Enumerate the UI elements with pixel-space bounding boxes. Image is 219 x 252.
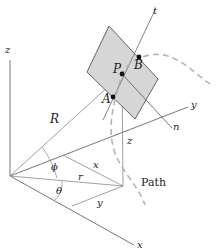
label-y-component: y xyxy=(96,197,103,208)
label-theta: θ xyxy=(56,185,62,196)
label-P: P xyxy=(112,62,122,76)
label-t: t xyxy=(153,5,158,16)
label-path: Path xyxy=(141,176,166,189)
label-x-component: x xyxy=(93,159,99,170)
label-y-axis: y xyxy=(190,99,197,110)
label-phi: ϕ xyxy=(51,161,58,172)
point-A xyxy=(111,95,116,100)
label-n: n xyxy=(173,121,179,132)
label-A: A xyxy=(101,92,111,106)
label-B: B xyxy=(133,58,143,72)
label-R: R xyxy=(49,112,59,126)
label-z-component: z xyxy=(126,135,133,146)
label-r: r xyxy=(78,171,84,182)
x-axis xyxy=(10,176,134,245)
coordinate-diagram: z y x R ϕ θ r x y z P B A t n Path xyxy=(0,0,219,252)
y-axis xyxy=(10,107,188,176)
label-x-axis: x xyxy=(137,239,143,250)
label-z-axis: z xyxy=(4,44,11,55)
